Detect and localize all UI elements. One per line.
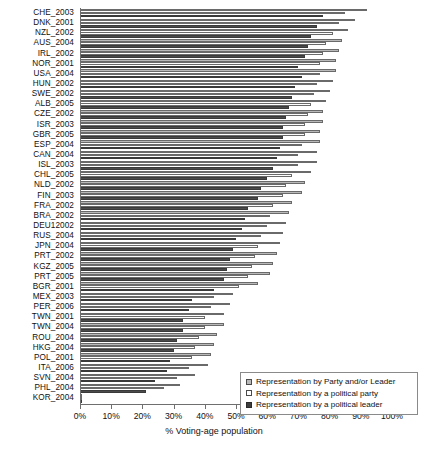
chart-legend: Representation by Party and/or Leader Re… (240, 372, 418, 415)
bar-leader (80, 380, 155, 383)
y-axis-label: ISL_2003 (0, 160, 77, 170)
legend-swatch-leader-icon (246, 402, 252, 408)
bar-leader (80, 309, 189, 312)
y-axis-label: NZL_2002 (0, 28, 77, 38)
y-axis-label: POL_2001 (0, 353, 77, 363)
bar-group (80, 333, 392, 343)
bar-leader (80, 136, 283, 139)
bar-group (80, 170, 392, 180)
y-axis-label: DEU12002 (0, 221, 77, 231)
bar-leader (80, 390, 146, 393)
y-axis-label: CZE_2002 (0, 109, 77, 119)
bar-group (80, 343, 392, 353)
x-tick-mark (142, 405, 143, 409)
bar-group (80, 140, 392, 150)
y-axis-label: FRA_2002 (0, 201, 77, 211)
bar-leader (80, 76, 302, 79)
legend-item-party: Representation by a political party (246, 388, 413, 400)
bar-group (80, 262, 392, 272)
y-axis-label: ROU_2004 (0, 333, 77, 343)
bar-leader (80, 177, 267, 180)
bar-group (80, 292, 392, 302)
y-axis-label: DNK_2001 (0, 18, 77, 28)
y-axis-label: FIN_2003 (0, 191, 77, 201)
bar-leader (80, 238, 236, 241)
bar-leader (80, 187, 261, 190)
bar-group (80, 59, 392, 69)
y-axis-label: CAN_2004 (0, 150, 77, 160)
bar-leader (80, 218, 245, 221)
bar-leader (80, 228, 242, 231)
x-tick-label: 0% (74, 411, 86, 421)
y-axis-category-labels: CHE_2003DNK_2001NZL_2002AUS_2004IRL_2002… (0, 8, 77, 404)
bar-leader (80, 360, 170, 363)
bar-group (80, 49, 392, 59)
y-axis-label: BRA_2002 (0, 211, 77, 221)
bar-leader (80, 289, 214, 292)
y-axis-label: HKG_2004 (0, 343, 77, 353)
bar-leader (80, 35, 311, 38)
bar-group (80, 211, 392, 221)
y-axis-label: USA_2004 (0, 69, 77, 79)
y-axis-label: PRT_2002 (0, 251, 77, 261)
x-tick-mark (111, 405, 112, 409)
y-axis-label: TWN_2001 (0, 312, 77, 322)
y-axis-label: CHL_2005 (0, 170, 77, 180)
bar-group (80, 353, 392, 363)
bar-leader (80, 147, 280, 150)
bar-leader (80, 268, 227, 271)
y-axis-label: HUN_2002 (0, 79, 77, 89)
y-axis-label: ISR_2003 (0, 120, 77, 130)
bar-leader (80, 15, 323, 18)
bar-leader (80, 349, 174, 352)
bar-group (80, 251, 392, 261)
y-axis-label: KOR_2004 (0, 393, 77, 403)
y-axis-label: IRL_2002 (0, 49, 77, 59)
bar-group (80, 130, 392, 140)
legend-item-combined: Representation by Party and/or Leader (246, 376, 413, 388)
y-axis-label: PER_2006 (0, 302, 77, 312)
x-tick-label: 10% (103, 411, 120, 421)
bar-group (80, 120, 392, 130)
bar-group (80, 99, 392, 109)
bar-leader (80, 25, 317, 28)
bar-leader (80, 258, 230, 261)
bar-group (80, 282, 392, 292)
bar-leader (80, 299, 192, 302)
legend-label-combined: Representation by Party and/or Leader (256, 377, 395, 386)
x-axis-title: % Voting-age population (0, 426, 428, 436)
y-axis-label: NOR_2001 (0, 59, 77, 69)
bar-leader (80, 106, 289, 109)
bar-group (80, 8, 392, 18)
bar-leader (80, 157, 277, 160)
legend-swatch-party-icon (246, 390, 252, 396)
bar-group (80, 312, 392, 322)
y-axis-label: ITA_2006 (0, 363, 77, 373)
y-axis-label: JPN_2004 (0, 241, 77, 251)
x-tick-mark (205, 405, 206, 409)
bar-group (80, 272, 392, 282)
bar-leader (80, 66, 298, 69)
y-axis-label: ALB_2005 (0, 99, 77, 109)
bar-leader (80, 339, 177, 342)
bar-group (80, 150, 392, 160)
bar-group (80, 231, 392, 241)
bar-leader (80, 45, 308, 48)
bar-leader (80, 86, 295, 89)
bar-group (80, 69, 392, 79)
legend-swatch-combined-icon (246, 379, 252, 385)
bar-leader (80, 126, 283, 129)
bar-group (80, 201, 392, 211)
bar-group (80, 180, 392, 190)
y-axis-label: MEX_2003 (0, 292, 77, 302)
y-axis-line (80, 8, 81, 404)
bar-group (80, 18, 392, 28)
bar-leader (80, 329, 183, 332)
x-tick-mark (80, 405, 81, 409)
x-tick-label: 20% (134, 411, 151, 421)
bar-group (80, 302, 392, 312)
bar-leader (80, 96, 292, 99)
bar-leader (80, 116, 286, 119)
bar-group (80, 89, 392, 99)
bar-group (80, 221, 392, 231)
